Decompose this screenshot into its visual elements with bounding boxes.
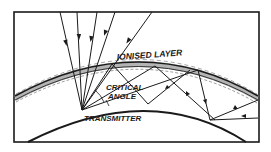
ionised-layer-band xyxy=(15,60,258,104)
escaping-ray-arrows xyxy=(63,29,131,46)
angle-label: ANGLE xyxy=(107,92,137,101)
critical-label: CRITICAL xyxy=(106,83,143,92)
diagram-canvas: IONISED LAYER CRITICAL ANGLE TRANSMITTER xyxy=(0,0,271,152)
transmitter-label: TRANSMITTER xyxy=(84,114,142,123)
propagation-diagram: IONISED LAYER CRITICAL ANGLE TRANSMITTER xyxy=(0,0,271,152)
